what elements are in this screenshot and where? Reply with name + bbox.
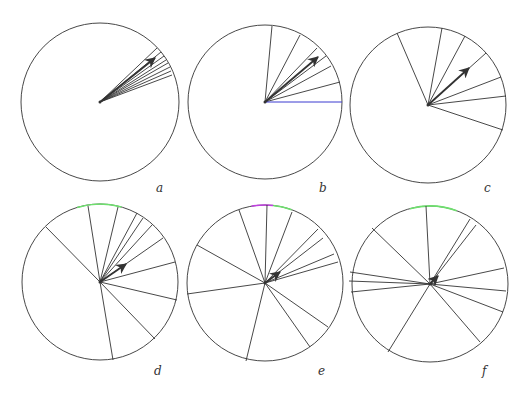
radial-line xyxy=(428,36,465,105)
panels-layer xyxy=(21,23,508,362)
radial-line xyxy=(351,284,430,292)
radial-line xyxy=(100,282,177,300)
radial-line xyxy=(46,227,100,282)
panel-label-b: b xyxy=(319,181,327,195)
highlight-arc xyxy=(273,205,292,209)
radial-line xyxy=(88,206,100,282)
center-point xyxy=(99,101,102,104)
radial-line xyxy=(265,229,318,283)
radial-line xyxy=(397,33,428,105)
radial-line xyxy=(430,284,506,291)
figure-canvas xyxy=(0,0,530,396)
radial-line xyxy=(100,48,157,102)
radial-line xyxy=(100,71,171,102)
panel-label-e: e xyxy=(318,364,325,378)
center-point xyxy=(429,283,432,286)
highlight-arc xyxy=(410,206,457,211)
panel-label-f: f xyxy=(482,364,486,378)
highlight-arc xyxy=(251,205,273,206)
radial-line xyxy=(239,210,265,283)
center-point xyxy=(264,282,267,285)
panel-f xyxy=(349,206,508,362)
radial-line xyxy=(388,284,430,352)
radial-line xyxy=(426,206,430,284)
radial-line xyxy=(265,283,328,327)
center-point xyxy=(264,101,267,104)
center-point xyxy=(99,281,102,284)
panel-b xyxy=(188,25,342,179)
radial-line xyxy=(100,67,170,102)
radial-line xyxy=(265,48,317,102)
radial-line xyxy=(372,228,430,284)
panel-e xyxy=(187,205,343,361)
resultant-arrow-icon xyxy=(100,58,155,102)
radial-line xyxy=(265,254,334,283)
panel-d xyxy=(22,204,178,360)
highlight-arc xyxy=(77,204,121,207)
panel-label-a: a xyxy=(156,181,163,195)
radial-line xyxy=(265,283,310,347)
panel-label-d: d xyxy=(154,364,162,378)
radial-line xyxy=(197,245,265,283)
radial-line xyxy=(428,105,503,130)
panel-c xyxy=(350,27,506,183)
panel-label-c: c xyxy=(484,181,491,195)
radial-line xyxy=(246,283,265,361)
radial-line xyxy=(430,219,470,284)
radial-line xyxy=(265,205,267,283)
radial-line xyxy=(265,262,338,283)
radial-line xyxy=(430,284,480,342)
center-point xyxy=(427,104,430,107)
radial-line xyxy=(430,284,503,312)
panel-a xyxy=(21,23,179,181)
radial-line xyxy=(187,283,265,294)
radial-line xyxy=(100,63,168,102)
